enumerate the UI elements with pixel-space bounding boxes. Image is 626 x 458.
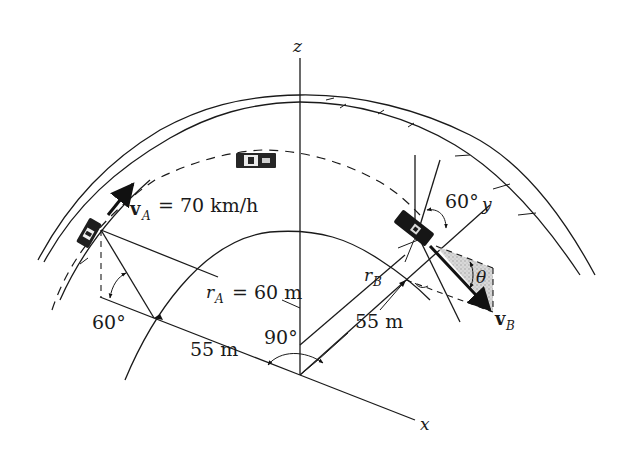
angle-90-label: 90°: [264, 326, 298, 348]
x-axis-label: x: [420, 414, 430, 434]
car-middle-icon: [236, 153, 276, 168]
car-b-elevation-angle: 60°: [445, 190, 479, 212]
svg-text:r: r: [364, 265, 373, 285]
svg-text:v: v: [494, 308, 506, 329]
svg-text:= 60 m: = 60 m: [232, 281, 302, 303]
car-a-geometry: [101, 230, 218, 320]
y-axis: [300, 205, 490, 375]
car-a-horizontal-distance: 55 m: [190, 338, 238, 360]
svg-text:B: B: [505, 319, 515, 333]
svg-text:v: v: [129, 198, 141, 219]
y-axis-label: y: [481, 194, 492, 214]
svg-text:= 70 km/h: = 70 km/h: [158, 194, 258, 216]
car-a-velocity-label: v A = 70 km/h: [129, 194, 258, 223]
svg-text:B: B: [372, 275, 382, 289]
x-axis: [300, 375, 415, 420]
car-b-velocity-label: v B: [494, 308, 515, 333]
car-a-elevation-angle: 60°: [92, 311, 126, 333]
car-a-radius-label: r A = 60 m: [206, 281, 302, 306]
car-b-horizontal-distance: 55 m: [355, 310, 403, 332]
z-axis-label: z: [292, 36, 303, 56]
svg-text:A: A: [214, 292, 224, 306]
car-b-radius-label: r B: [364, 265, 382, 289]
car-a-icon: [76, 217, 102, 248]
svg-text:r: r: [206, 282, 215, 302]
track-diagram: z x y 90° 60° 55 m r A = 60 m: [0, 0, 626, 458]
car-b-pitch-angle: θ: [476, 267, 486, 287]
svg-text:A: A: [141, 209, 151, 223]
